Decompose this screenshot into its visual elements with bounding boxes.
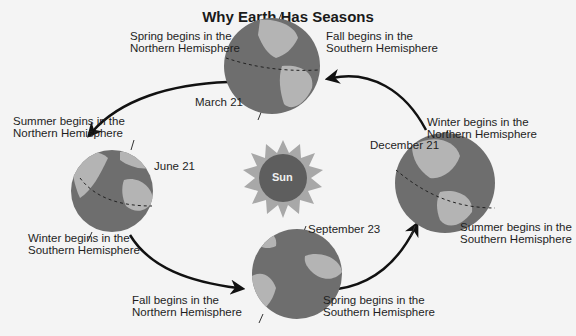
orbit-artwork xyxy=(0,0,576,336)
label-summer-south: Summer begins in theSouthern Hemisphere xyxy=(460,221,572,245)
label-spring-south: Spring begins in theSouthern Hemisphere xyxy=(323,294,435,318)
label-winter-south: Winter begins in theSouthern Hemisphere xyxy=(28,232,140,256)
date-june: June 21 xyxy=(154,160,195,172)
date-march: March 21 xyxy=(195,96,243,108)
orbit-arrow-june-to-september xyxy=(130,235,238,288)
date-december: December 21 xyxy=(370,139,439,151)
orbit-arrow-december-to-march xyxy=(332,76,426,130)
earth-globe-june xyxy=(71,140,153,241)
label-fall-south: Fall begins in theSouthern Hemisphere xyxy=(326,30,438,54)
label-fall-north: Fall begins in theNorthern Hemisphere xyxy=(132,294,242,318)
date-september: September 23 xyxy=(308,223,380,235)
label-spring-north: Spring begins in theNorthern Hemisphere xyxy=(130,30,240,54)
label-summer-north: Summer begins in theNorthern Hemisphere xyxy=(13,115,125,139)
sun-label: Sun xyxy=(272,171,293,183)
label-winter-north: Winter begins in theNorthern Hemisphere xyxy=(427,116,537,140)
